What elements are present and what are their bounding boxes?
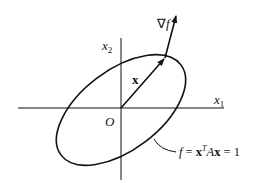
x-vector-arrow — [121, 59, 164, 108]
origin-label: O — [105, 114, 115, 129]
x-vector-label: x — [132, 72, 139, 87]
curve-leader-line — [154, 139, 176, 152]
x1-axis-label: x1 — [213, 92, 224, 109]
gradient-label: ∇f — [156, 16, 172, 31]
diagram-canvas: x2 x1 O x ∇f f = xTAx = 1 — [0, 0, 257, 183]
x2-axis-label: x2 — [101, 38, 112, 55]
curve-equation-label: f = xTAx = 1 — [179, 144, 240, 159]
